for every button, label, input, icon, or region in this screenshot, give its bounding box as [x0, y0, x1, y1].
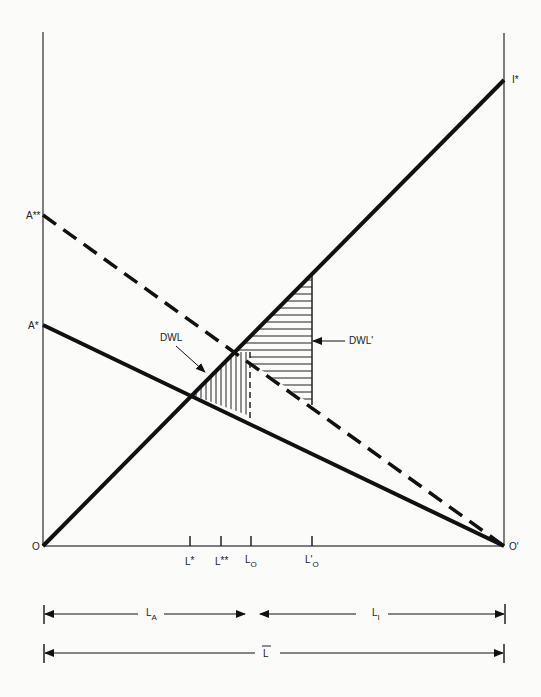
labor-allocation-diagram: O O' A** A* I* L* L** LO L'O DWL DWL' LA…	[0, 0, 541, 697]
label-origin-o: O	[32, 541, 40, 552]
label-origin-o-prime: O'	[509, 541, 519, 552]
curve-o-to-i-star	[43, 80, 504, 546]
diagram-canvas: O O' A** A* I* L* L** LO L'O DWL DWL' LA…	[0, 0, 541, 697]
x-ticks	[190, 536, 312, 546]
label-l-a: LA	[146, 607, 158, 622]
curve-a-double-star-to-o-prime	[43, 215, 504, 546]
dwl-region	[196, 340, 246, 420]
label-i-star: I*	[512, 74, 519, 85]
label-dwl-prime: DWL'	[349, 335, 373, 346]
label-l-star: L*	[185, 555, 195, 567]
axes	[43, 32, 504, 546]
span-l-a: LA	[44, 605, 245, 624]
dwl-pointer-arrow	[176, 346, 205, 372]
curve-a-star-to-o-prime	[43, 325, 504, 546]
label-a-double-star: A**	[26, 210, 41, 221]
dwl-prime-region	[220, 280, 315, 399]
label-dwl: DWL	[160, 332, 183, 343]
span-l-bar: L	[44, 644, 504, 663]
label-l-prime-o: L'O	[305, 554, 319, 569]
label-l-o: LO	[245, 554, 257, 569]
span-l-i: LI	[260, 604, 505, 624]
label-l-double-star: L**	[215, 555, 228, 567]
label-a-star: A*	[28, 320, 39, 331]
label-l-i: LI	[372, 607, 380, 622]
label-l-bar: L	[263, 648, 269, 659]
